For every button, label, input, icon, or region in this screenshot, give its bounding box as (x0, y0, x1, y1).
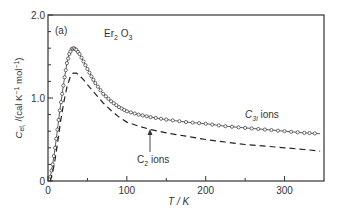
data-point-marker (96, 85, 99, 88)
data-point-marker (165, 118, 168, 121)
data-point-marker (154, 116, 157, 119)
data-point-marker (237, 126, 240, 129)
data-point-marker (99, 89, 102, 92)
data-point-marker (80, 56, 83, 59)
data-point-marker (178, 120, 181, 123)
data-point-marker (65, 62, 68, 65)
data-point-marker (61, 92, 64, 95)
data-point-marker (211, 123, 214, 126)
data-point-marker (94, 81, 97, 84)
data-point-marker (244, 126, 247, 129)
data-point-marker (184, 120, 187, 123)
compound-label: Er2 O3 (104, 28, 132, 41)
data-point-marker (159, 117, 162, 120)
data-point-marker (64, 69, 67, 72)
data-point-marker (137, 113, 140, 116)
data-point-marker (145, 115, 148, 118)
data-point-marker (283, 130, 286, 133)
data-point-marker (90, 75, 93, 78)
data-point-marker (224, 125, 227, 128)
data-point-marker (263, 128, 266, 131)
data-point-marker (82, 60, 85, 63)
data-point-marker (313, 132, 316, 135)
panel-label: (a) (55, 25, 67, 36)
data-point-marker (92, 78, 95, 81)
data-point-marker (125, 110, 128, 113)
x-tick-label: 300 (276, 185, 293, 196)
data-point-marker (107, 97, 110, 100)
data-point-marker (191, 121, 194, 124)
data-point-marker (204, 122, 207, 125)
data-point-marker (88, 71, 91, 74)
data-point-marker (63, 76, 66, 79)
c2-arrow (148, 129, 153, 152)
x-tick-label: 0 (45, 185, 51, 196)
data-point-marker (149, 115, 152, 118)
data-point-marker (230, 125, 233, 128)
data-point-marker (270, 128, 273, 131)
data-point-marker (171, 119, 174, 122)
x-tick-label: 100 (119, 185, 136, 196)
data-point-marker (133, 112, 136, 115)
c2-ions-label: C2 ions (137, 154, 169, 167)
data-point-marker (86, 67, 89, 70)
data-point-marker (303, 131, 306, 134)
data-point-marker (102, 92, 105, 95)
data-point-marker (217, 124, 220, 127)
data-point-marker (59, 101, 62, 104)
plot-frame (48, 15, 324, 181)
c3i-line (50, 48, 320, 177)
x-tick-label: 200 (197, 185, 214, 196)
data-series (49, 47, 320, 181)
data-point-marker (57, 118, 60, 121)
chart: 010020030001.02.0 (a) Er2 O3 C3i ions C2… (0, 0, 343, 213)
data-point-marker (276, 129, 279, 132)
data-point-marker (58, 109, 61, 112)
data-point-marker (78, 52, 81, 55)
data-point-marker (104, 95, 107, 98)
c3i-ions-label: C3i ions (245, 109, 279, 122)
y-tick-label: 1.0 (31, 93, 45, 104)
y-axis-label: Cel, /(cal K−1 mol−1) (13, 58, 25, 139)
x-axis-label: T / K (168, 196, 190, 207)
data-point-marker (257, 127, 260, 130)
y-tick-label: 0 (39, 176, 45, 187)
data-point-marker (198, 122, 201, 125)
data-point-marker (129, 111, 132, 114)
y-tick-label: 2.0 (31, 10, 45, 21)
data-point-marker (141, 114, 144, 117)
data-point-marker (84, 64, 87, 67)
data-point-marker (56, 128, 59, 131)
c2-dashed-line (50, 73, 320, 181)
data-point-marker (308, 132, 311, 135)
data-point-marker (55, 137, 58, 140)
data-point-marker (250, 127, 253, 130)
data-point-marker (67, 57, 70, 60)
data-point-marker (296, 131, 299, 134)
axis-tick-labels: 010020030001.02.0 (31, 10, 293, 196)
data-point-marker (290, 130, 293, 133)
data-point-marker (62, 84, 65, 87)
